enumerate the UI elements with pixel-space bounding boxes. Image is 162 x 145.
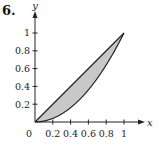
- x-tick-label: 1: [121, 128, 127, 139]
- y-tick-label: 0.2: [15, 99, 30, 110]
- y-axis-arrow-icon: [33, 11, 38, 18]
- x-tick-label: 0.8: [99, 128, 114, 139]
- line-y-equals-x: [35, 33, 124, 122]
- x-tick-label: 0.4: [63, 128, 78, 139]
- y-tick-label: 0.8: [15, 45, 30, 56]
- plot: 0 0.2 0.4 0.6 0.8 1 0.2 0.4 0.6 0.8 1 x …: [0, 0, 162, 145]
- figure-number: 6.: [2, 3, 16, 18]
- x-axis-arrow-icon: [138, 120, 145, 125]
- y-tick-label: 0.6: [15, 63, 30, 74]
- x-tick-label: 0.6: [81, 128, 96, 139]
- x-axis-label: x: [147, 117, 153, 128]
- x-tick-label: 0.2: [45, 128, 60, 139]
- y-tick-label: 1: [24, 27, 30, 38]
- origin-label: 0: [26, 128, 32, 139]
- figure: 6. 0 0.2 0.4 0.6: [0, 0, 162, 145]
- y-tick-label: 0.4: [15, 81, 30, 92]
- y-axis-label: y: [31, 0, 38, 11]
